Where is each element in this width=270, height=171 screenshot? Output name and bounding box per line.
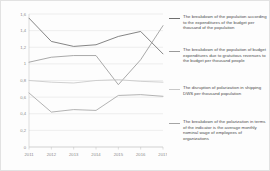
legend-swatch-series-1 bbox=[169, 18, 180, 19]
legend-label-series-2: The breakdown of the population of budge… bbox=[183, 47, 269, 64]
y-axis-tick-label: 0 bbox=[24, 145, 27, 150]
series-line-4 bbox=[29, 93, 163, 112]
y-axis-tick-label: 1 bbox=[24, 61, 27, 66]
chart-legend: The breakdown of the population accordin… bbox=[167, 1, 270, 171]
chart-canvas: 1,61,41,210,80,60,40,2020112012201320142… bbox=[1, 1, 167, 171]
x-axis-tick-label: 2011 bbox=[24, 152, 34, 157]
series-line-2 bbox=[29, 26, 163, 85]
y-axis-tick-label: 1,4 bbox=[20, 28, 26, 33]
series-line-1 bbox=[29, 18, 163, 54]
x-axis-tick-label: 2015 bbox=[114, 152, 124, 157]
legend-swatch-series-2 bbox=[169, 51, 180, 52]
legend-item-budget-expenditures: The breakdown of the population accordin… bbox=[167, 14, 270, 31]
legend-label-series-3: The disruption of polarization in shippi… bbox=[183, 85, 269, 96]
x-axis-tick-label: 2017 bbox=[158, 152, 167, 157]
y-axis-tick-label: 0,8 bbox=[20, 78, 26, 83]
x-axis-tick-label: 2016 bbox=[136, 152, 146, 157]
legend-label-series-1: The breakdown of the population accordin… bbox=[183, 14, 269, 31]
legend-item-gratuitous-revenues: The breakdown of the population of budge… bbox=[167, 47, 270, 64]
y-axis-tick-label: 0,4 bbox=[20, 111, 26, 116]
legend-label-series-4: The breakdown of the polarization in ter… bbox=[183, 119, 269, 141]
y-axis-tick-label: 0,6 bbox=[20, 95, 26, 100]
series-line-3 bbox=[29, 80, 163, 83]
x-axis-tick-label: 2012 bbox=[47, 152, 57, 157]
line-chart: 1,61,41,210,80,60,40,2020112012201320142… bbox=[1, 1, 167, 171]
legend-swatch-series-3 bbox=[169, 89, 180, 90]
y-axis-tick-label: 1,6 bbox=[20, 12, 26, 17]
x-axis-tick-label: 2013 bbox=[69, 152, 79, 157]
legend-swatch-series-4 bbox=[169, 123, 180, 124]
y-axis-tick-label: 0,2 bbox=[20, 128, 26, 133]
y-axis-tick-label: 1,2 bbox=[20, 45, 26, 50]
legend-item-shipping-dws: The disruption of polarization in shippi… bbox=[167, 85, 270, 96]
legend-item-nominal-wage: The breakdown of the polarization in ter… bbox=[167, 119, 270, 141]
chart-page: 1,61,41,210,80,60,40,2020112012201320142… bbox=[0, 0, 270, 171]
x-axis-tick-label: 2014 bbox=[91, 152, 101, 157]
